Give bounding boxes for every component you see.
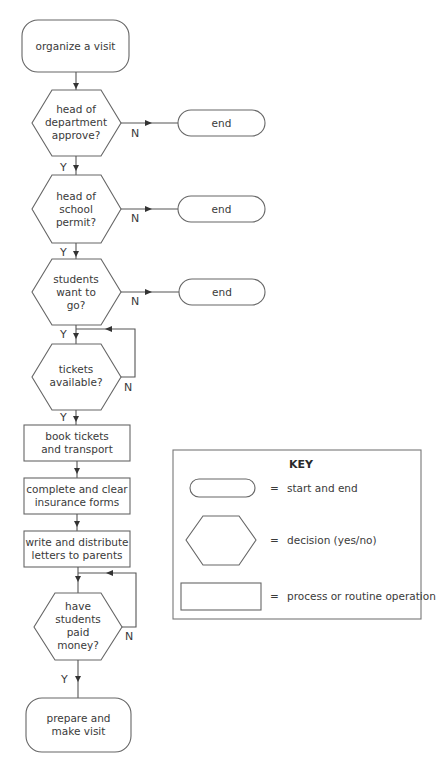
svg-text:N: N [125,630,133,643]
svg-text:write and distribute: write and distribute [25,536,128,548]
svg-text:=: = [270,482,279,494]
svg-text:N: N [131,295,139,308]
svg-text:tickets: tickets [59,363,94,375]
end-node-2: end [178,196,265,222]
svg-text:paid: paid [67,626,90,638]
svg-text:make visit: make visit [52,725,106,737]
decision-tickets-available: tickets available? [32,344,121,410]
end-node-3: end [179,279,265,305]
yes-label: Y [59,161,67,174]
svg-text:end: end [212,286,232,298]
svg-text:Y: Y [59,328,67,341]
svg-text:Y: Y [59,411,67,424]
svg-text:head of: head of [56,190,96,202]
svg-text:students: students [53,273,99,285]
svg-text:end: end [212,203,232,215]
start-node: organize a visit [22,20,129,72]
end-node-1: end [178,110,265,136]
svg-text:=: = [270,534,279,546]
svg-text:Y: Y [60,673,68,686]
legend-key: KEY = start and end = decision (yes/no) … [173,450,436,619]
svg-text:available?: available? [50,376,103,388]
svg-text:N: N [131,212,139,225]
svg-text:=: = [270,590,279,602]
svg-text:want to: want to [56,286,96,298]
finish-node: prepare and make visit [26,698,131,752]
svg-text:start and end: start and end [287,482,358,494]
decision-school-permit: head of school permit? [32,175,121,243]
process-insurance-forms: complete and clear insurance forms [24,478,130,514]
flowchart-diagram: organize a visit head of department appr… [0,0,445,773]
svg-text:process or routine operation: process or routine operation [287,590,436,602]
svg-text:book tickets: book tickets [45,430,109,442]
svg-text:go?: go? [67,299,86,311]
svg-text:and transport: and transport [41,443,113,455]
svg-text:prepare and: prepare and [47,712,111,724]
svg-text:department: department [45,116,107,128]
process-write-letters: write and distribute letters to parents [24,531,130,567]
svg-text:permit?: permit? [56,216,96,228]
decision-students-want: students want to go? [32,259,121,325]
svg-text:complete and clear: complete and clear [26,483,128,495]
svg-text:N: N [124,381,132,394]
svg-text:letters to parents: letters to parents [32,549,123,561]
start-label: organize a visit [36,40,116,52]
svg-text:head of: head of [56,103,96,115]
svg-text:have: have [65,600,91,612]
svg-text:decision (yes/no): decision (yes/no) [287,534,377,546]
svg-text:approve?: approve? [52,129,101,141]
process-book-tickets: book tickets and transport [24,425,130,461]
svg-text:end: end [212,117,232,129]
svg-text:Y: Y [59,246,67,259]
key-title: KEY [289,458,314,471]
decision-paid-money: have students paid money? [34,593,122,660]
decision-department-approve: head of department approve? [32,90,121,156]
svg-text:school: school [59,203,93,215]
svg-text:students: students [55,613,101,625]
svg-text:money?: money? [57,639,99,651]
no-label: N [131,127,139,140]
svg-text:insurance forms: insurance forms [35,496,120,508]
